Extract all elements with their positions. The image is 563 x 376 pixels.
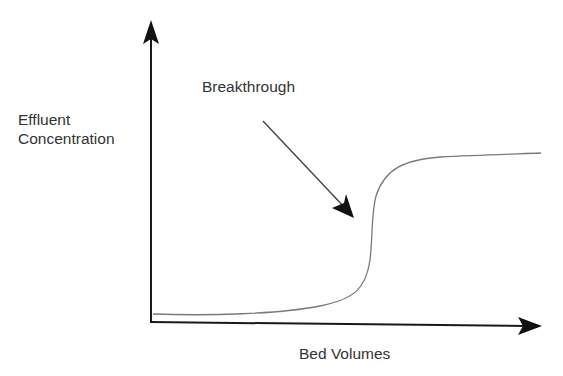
- x-axis: [150, 322, 526, 326]
- breakthrough-curve: [153, 153, 541, 315]
- y-axis-label-line2: Concentration: [18, 129, 115, 148]
- breakthrough-annotation: Breakthrough: [202, 77, 295, 96]
- breakthrough-diagram: Effluent Concentration Breakthrough Bed …: [0, 0, 563, 376]
- x-axis-label: Bed Volumes: [299, 344, 390, 363]
- annotation-arrow-line: [263, 121, 346, 209]
- diagram-svg: [0, 0, 563, 376]
- y-axis-label: Effluent Concentration: [18, 110, 115, 148]
- y-axis-label-line1: Effluent: [18, 110, 115, 129]
